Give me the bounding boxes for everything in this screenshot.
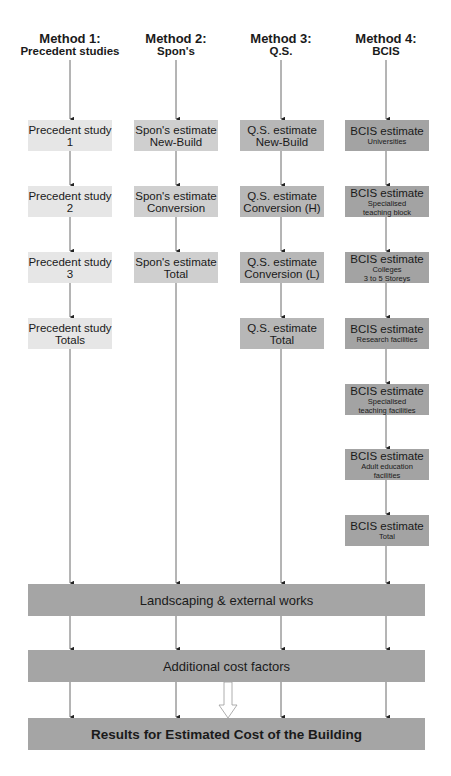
box-sub-label: Colleges bbox=[372, 265, 401, 274]
precedent-study-1-box: Precedent study 1 bbox=[28, 120, 112, 151]
results-label: Results for Estimated Cost of the Buildi… bbox=[91, 727, 362, 742]
method-2-subtitle: Spon's bbox=[121, 45, 231, 58]
box-main-label: BCIS estimate bbox=[350, 323, 424, 335]
bcis-colleges-box: BCIS estimate Colleges 3 to 5 Storeys bbox=[345, 252, 429, 283]
method-1-subtitle: Precedent studies bbox=[15, 45, 125, 58]
method-3-title: Method 3: bbox=[226, 32, 336, 45]
method-2-title: Method 2: bbox=[121, 32, 231, 45]
box-sub-label-2: facilities bbox=[374, 471, 401, 480]
box-sub-label: Total bbox=[270, 334, 294, 346]
box-sub-label: 1 bbox=[67, 136, 73, 148]
box-main-label: Spon's estimate bbox=[135, 256, 216, 268]
box-main-label: Precedent study bbox=[28, 124, 111, 136]
box-main-label: Precedent study bbox=[28, 256, 111, 268]
box-main-label: Precedent study bbox=[28, 190, 111, 202]
box-main-label: BCIS estimate bbox=[350, 520, 424, 532]
qs-conversion-h-box: Q.S. estimate Conversion (H) bbox=[240, 186, 324, 217]
bcis-specialised-teaching-block-box: BCIS estimate Specialised teaching block bbox=[345, 186, 429, 217]
box-sub-label: Universities bbox=[368, 137, 407, 146]
box-sub-label: Conversion (H) bbox=[243, 202, 320, 214]
bcis-adult-education-box: BCIS estimate Adult education facilities bbox=[345, 449, 429, 480]
method-3-subtitle: Q.S. bbox=[226, 45, 336, 58]
qs-conversion-l-box: Q.S. estimate Conversion (L) bbox=[240, 252, 324, 283]
landscaping-label: Landscaping & external works bbox=[140, 593, 313, 608]
box-sub-label: Conversion (L) bbox=[244, 268, 319, 280]
method-3-header: Method 3: Q.S. bbox=[226, 32, 336, 58]
bcis-total-box: BCIS estimate Total bbox=[345, 515, 429, 546]
spons-new-build-box: Spon's estimate New-Build bbox=[134, 120, 218, 151]
box-main-label: BCIS estimate bbox=[350, 385, 424, 397]
box-sub-label: 2 bbox=[67, 202, 73, 214]
precedent-study-3-box: Precedent study 3 bbox=[28, 252, 112, 283]
box-main-label: BCIS estimate bbox=[350, 125, 424, 137]
precedent-study-2-box: Precedent study 2 bbox=[28, 186, 112, 217]
precedent-study-totals-box: Precedent study Totals bbox=[28, 318, 112, 349]
hollow-down-arrow-icon bbox=[219, 682, 237, 718]
box-main-label: Q.S. estimate bbox=[247, 190, 317, 202]
additional-cost-factors-label: Additional cost factors bbox=[163, 659, 290, 674]
method-2-header: Method 2: Spon's bbox=[121, 32, 231, 58]
results-bar: Results for Estimated Cost of the Buildi… bbox=[28, 718, 425, 750]
box-main-label: Q.S. estimate bbox=[247, 124, 317, 136]
spons-total-box: Spon's estimate Total bbox=[134, 252, 218, 283]
box-main-label: Q.S. estimate bbox=[247, 322, 317, 334]
box-main-label: Spon's estimate bbox=[135, 190, 216, 202]
box-sub-label: Specialised bbox=[368, 397, 406, 406]
box-sub-label: Research facilities bbox=[357, 335, 418, 344]
box-sub-label-2: 3 to 5 Storeys bbox=[364, 274, 410, 283]
method-4-header: Method 4: BCIS bbox=[331, 32, 441, 58]
box-sub-label: Adult education bbox=[361, 462, 413, 471]
bcis-universities-box: BCIS estimate Universities bbox=[345, 120, 429, 151]
box-sub-label-2: teaching block bbox=[363, 208, 411, 217]
method-4-subtitle: BCIS bbox=[331, 45, 441, 58]
box-sub-label: Conversion bbox=[147, 202, 205, 214]
box-sub-label: New-Build bbox=[256, 136, 308, 148]
method-1-title: Method 1: bbox=[15, 32, 125, 45]
additional-cost-factors-bar: Additional cost factors bbox=[28, 650, 425, 682]
box-sub-label-2: teaching facilities bbox=[358, 406, 415, 415]
box-main-label: BCIS estimate bbox=[350, 253, 424, 265]
bcis-research-facilities-box: BCIS estimate Research facilities bbox=[345, 318, 429, 349]
box-sub-label: New-Build bbox=[150, 136, 202, 148]
box-main-label: Q.S. estimate bbox=[247, 256, 317, 268]
spons-conversion-box: Spon's estimate Conversion bbox=[134, 186, 218, 217]
box-main-label: Spon's estimate bbox=[135, 124, 216, 136]
box-sub-label: Totals bbox=[55, 334, 85, 346]
box-main-label: BCIS estimate bbox=[350, 450, 424, 462]
method-4-title: Method 4: bbox=[331, 32, 441, 45]
landscaping-bar: Landscaping & external works bbox=[28, 584, 425, 616]
bcis-specialised-teaching-facilities-box: BCIS estimate Specialised teaching facil… bbox=[345, 384, 429, 415]
method-1-header: Method 1: Precedent studies bbox=[15, 32, 125, 58]
box-sub-label: Specialised bbox=[368, 199, 406, 208]
box-main-label: Precedent study bbox=[28, 322, 111, 334]
box-main-label: BCIS estimate bbox=[350, 187, 424, 199]
box-sub-label: Total bbox=[164, 268, 188, 280]
qs-new-build-box: Q.S. estimate New-Build bbox=[240, 120, 324, 151]
box-sub-label: 3 bbox=[67, 268, 73, 280]
box-sub-label: Total bbox=[379, 532, 395, 541]
qs-total-box: Q.S. estimate Total bbox=[240, 318, 324, 349]
